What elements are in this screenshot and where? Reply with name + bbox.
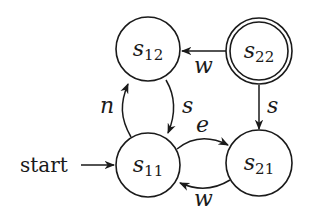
- edge-label-s-vertical: s: [182, 93, 193, 118]
- start-label: start: [20, 153, 68, 177]
- edge-s12-s11: [166, 80, 174, 133]
- start-marker: start: [20, 153, 114, 177]
- state-s21: s21: [226, 130, 292, 196]
- edge-s11-s21: [177, 139, 228, 149]
- edge-label-n: n: [100, 93, 114, 118]
- edge-s11-s12: [122, 84, 131, 137]
- edge-label-w-top: w: [194, 53, 213, 78]
- edge-label-e: e: [196, 112, 209, 137]
- state-s12: s12: [116, 17, 180, 81]
- state-s22: s22: [226, 18, 292, 84]
- state-s11: s11: [116, 133, 180, 197]
- edge-label-s-right: s: [267, 93, 278, 118]
- state-diagram: start n s e w w s s12 s22 s11: [0, 0, 309, 224]
- edge-label-w-bottom: w: [194, 186, 213, 211]
